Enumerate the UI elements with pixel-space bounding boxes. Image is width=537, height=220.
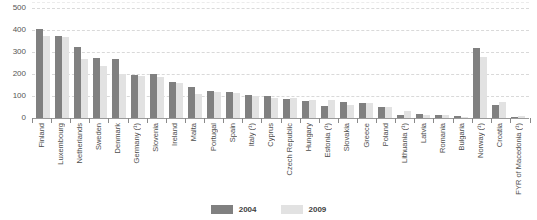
x-axis-label-sweden: Sweden [95, 123, 103, 150]
bar-2009 [480, 57, 487, 118]
bar-group [414, 8, 433, 118]
bar-2009 [62, 37, 69, 118]
bar-group [109, 8, 128, 118]
bar-2009 [195, 94, 202, 118]
bar-2004 [36, 29, 43, 118]
legend-label-2004: 2004 [239, 205, 257, 214]
bar-2004 [321, 106, 328, 118]
x-axis-label-estonia: Estonia (¹) [324, 123, 332, 158]
bar-2004 [131, 75, 138, 118]
x-axis-label-germany: Germany (¹) [133, 123, 141, 163]
bar-2009 [347, 105, 354, 118]
bar-2009 [499, 102, 506, 119]
y-tick-label-0: 0 [22, 114, 26, 122]
bar-group [395, 8, 414, 118]
legend-swatch-2009 [281, 205, 303, 214]
y-tick-label-200: 200 [13, 70, 26, 78]
bar-2009 [252, 96, 259, 118]
bar-group [490, 8, 509, 118]
bar-group [376, 8, 395, 118]
bar-group [280, 8, 299, 118]
bar-group [223, 8, 242, 118]
bar-2004 [378, 107, 385, 118]
bar-group [471, 8, 490, 118]
bar-2009 [366, 103, 373, 118]
x-axis-label-bulgaria: Bulgaria [458, 123, 466, 151]
x-axis-label-cyprus: Cyprus [267, 123, 275, 147]
x-axis-label-norway: Norway (¹) [477, 123, 485, 158]
bar-chart: 0100200300400500 FinlandLuxembourgNether… [0, 0, 537, 220]
x-axis-label-malta: Malta [190, 123, 198, 141]
bar-2004 [283, 99, 290, 118]
x-axis-label-italy: Italy (¹) [248, 123, 256, 146]
y-tick-label-500: 500 [13, 4, 26, 12]
bar-group [90, 8, 109, 118]
x-axis-label-finland: Finland [38, 123, 46, 148]
bar-2004 [74, 47, 81, 119]
chart-legend: 20042009 [0, 205, 537, 214]
bar-group [52, 8, 71, 118]
bar-2004 [245, 95, 252, 118]
plot-area [32, 8, 529, 118]
bar-2009 [214, 92, 221, 118]
bar-group [338, 8, 357, 118]
bar-2009 [233, 93, 240, 118]
x-axis-label-poland: Poland [382, 123, 390, 146]
bar-group [204, 8, 223, 118]
x-axis-label-hungary: Hungary [305, 123, 313, 151]
x-axis-label-latvia: Latvia [420, 123, 428, 143]
bar-group [452, 8, 471, 118]
bar-2009 [328, 100, 335, 118]
legend-item-2009[interactable]: 2009 [281, 205, 327, 214]
bar-group [185, 8, 204, 118]
x-axis-label-portugal: Portugal [210, 123, 218, 151]
bar-2004 [226, 92, 233, 118]
y-tick-label-100: 100 [13, 92, 26, 100]
bar-2004 [473, 48, 480, 118]
x-axis-label-lithuania: Lithuania (¹) [401, 123, 409, 163]
bar-2004 [207, 91, 214, 119]
bar-group [299, 8, 318, 118]
y-tick-label-300: 300 [13, 48, 26, 56]
x-axis-label-fyr-of-macedonia: FYR of Macedonia (¹) [515, 123, 523, 195]
bar-2009 [100, 66, 107, 118]
x-axis-label-slovakia: Slovakia [343, 123, 351, 151]
bar-2009 [138, 76, 145, 118]
bar-2004 [340, 102, 347, 118]
bar-2004 [93, 58, 100, 118]
bar-2004 [264, 96, 271, 118]
bar-2004 [359, 103, 366, 118]
bar-group [261, 8, 280, 118]
bar-2009 [43, 36, 50, 119]
bar-group [166, 8, 185, 118]
bar-group [71, 8, 90, 118]
bar-2009 [385, 107, 392, 118]
bar-2009 [119, 74, 126, 118]
x-axis-category-labels: FinlandLuxembourgNetherlandsSwedenDenmar… [32, 123, 529, 193]
bar-group [357, 8, 376, 118]
bar-group [242, 8, 261, 118]
bar-2004 [112, 59, 119, 118]
x-axis-label-slovenia: Slovenia [152, 123, 160, 152]
bar-2009 [157, 77, 164, 118]
bar-2009 [290, 98, 297, 118]
bar-2004 [55, 36, 62, 118]
x-axis-label-romania: Romania [439, 123, 447, 153]
bar-2004 [188, 87, 195, 118]
x-axis-label-denmark: Denmark [114, 123, 122, 153]
bar-2004 [492, 105, 499, 118]
bar-2009 [404, 111, 411, 118]
x-axis-label-ireland: Ireland [171, 123, 179, 146]
bar-group [509, 8, 528, 118]
x-axis-label-greece: Greece [363, 123, 371, 148]
bar-group [33, 8, 52, 118]
legend-label-2009: 2009 [309, 205, 327, 214]
bar-series-container [32, 8, 529, 118]
bar-2009 [81, 59, 88, 118]
x-axis-label-luxembourg: Luxembourg [57, 123, 65, 165]
x-axis-label-czech-republic: Czech Republic [286, 123, 294, 176]
top-rule [32, 2, 529, 3]
legend-swatch-2004 [211, 205, 233, 214]
y-tick-label-400: 400 [13, 26, 26, 34]
legend-item-2004[interactable]: 2004 [211, 205, 257, 214]
